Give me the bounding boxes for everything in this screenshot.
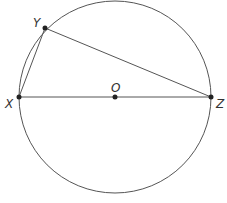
label-y: Y <box>33 16 42 30</box>
label-x: X <box>4 97 14 111</box>
point-x <box>17 95 22 100</box>
point-o <box>113 95 118 100</box>
point-z <box>209 95 214 100</box>
label-o: O <box>111 81 120 95</box>
label-z: Z <box>215 97 225 111</box>
geometry-diagram: X Y O Z <box>0 0 227 203</box>
point-y <box>43 26 48 31</box>
segment-yz <box>45 28 211 97</box>
segment-xy <box>19 28 45 97</box>
